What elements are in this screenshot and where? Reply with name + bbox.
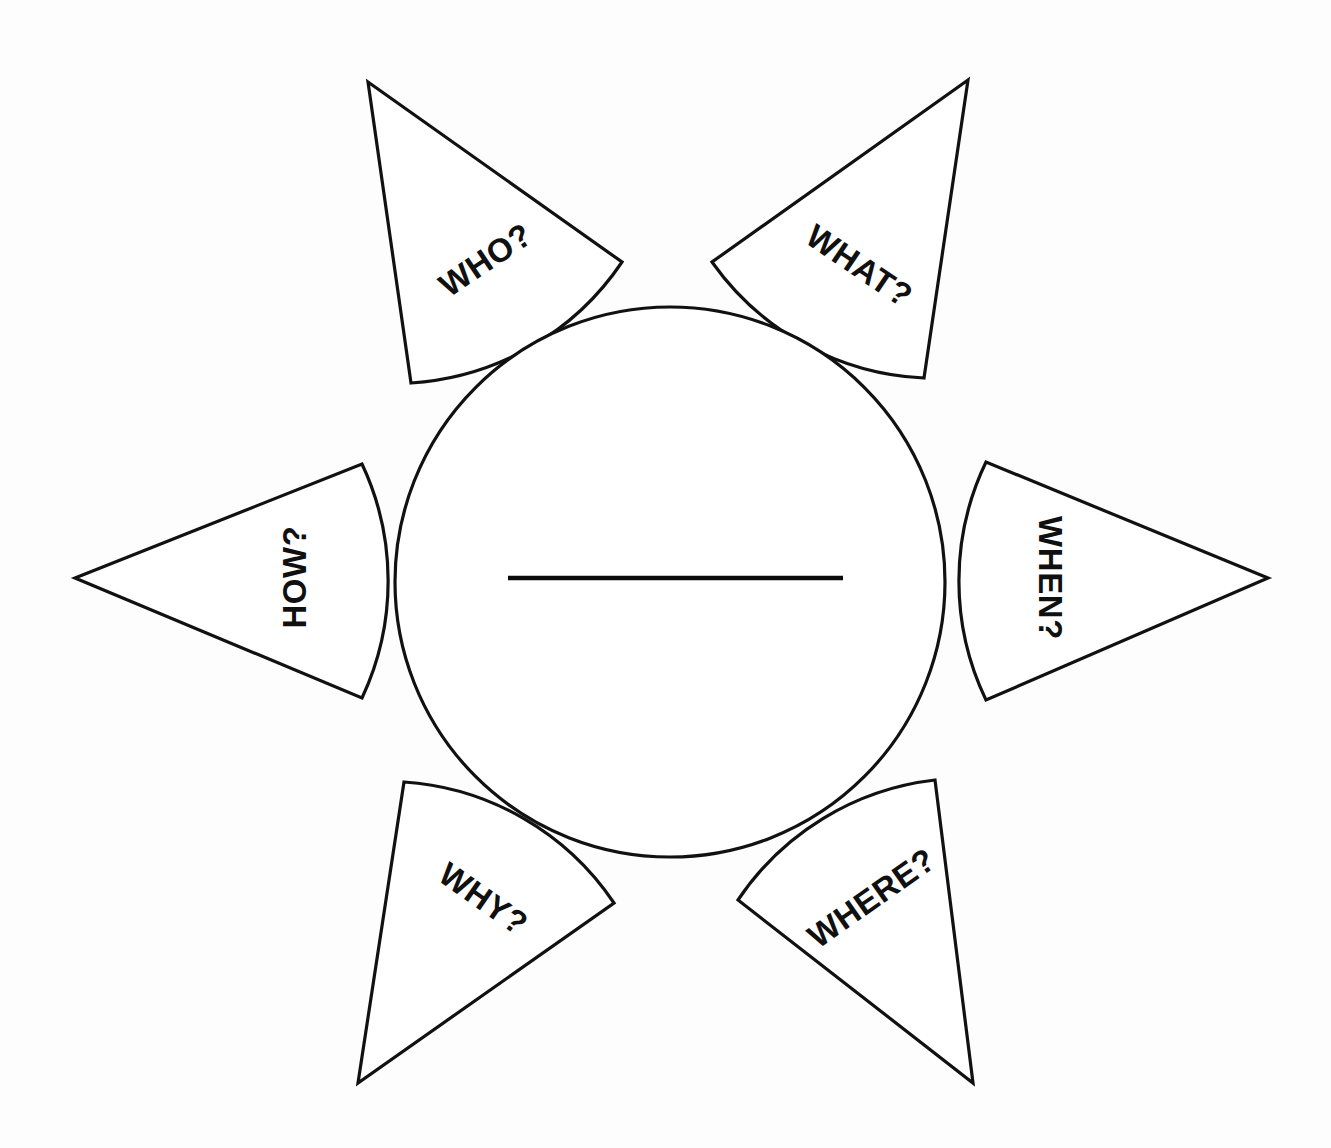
petal-how[interactable] [75,464,388,698]
worksheet-canvas: WHO?WHAT?HOW?WHEN?WHY?WHERE? [0,0,1331,1148]
petal-label-when: WHEN? [1032,516,1069,640]
topic-circle[interactable] [395,307,945,857]
question-wheel-diagram: WHO?WHAT?HOW?WHEN?WHY?WHERE? [0,0,1331,1148]
petal-when[interactable] [959,462,1268,700]
petal-label-how: HOW? [276,525,313,628]
